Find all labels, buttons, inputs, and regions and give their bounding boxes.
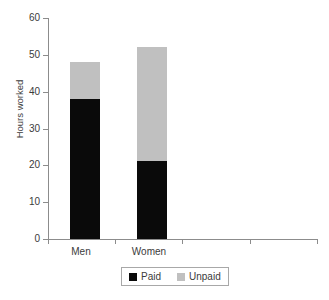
y-tick-label-0: 0 — [0, 234, 40, 244]
stacked-bar-chart: 60 50 40 30 20 10 0 Hours worked Men Wom… — [0, 0, 329, 300]
bar-men-unpaid — [70, 62, 100, 99]
bar-women-paid — [137, 161, 167, 239]
legend-item-unpaid: Unpaid — [177, 272, 221, 282]
y-tick-40 — [43, 92, 48, 93]
legend-label-unpaid: Unpaid — [189, 272, 221, 282]
legend-swatch-unpaid-icon — [177, 273, 185, 281]
y-tick-60 — [43, 18, 48, 19]
y-tick-label-60: 60 — [0, 13, 40, 23]
bar-women-unpaid — [137, 47, 167, 161]
y-tick-20 — [43, 165, 48, 166]
x-tick-2 — [182, 239, 183, 244]
x-axis-line — [48, 239, 318, 240]
x-tick-3 — [250, 239, 251, 244]
x-tick-0 — [48, 239, 49, 244]
y-tick-30 — [43, 129, 48, 130]
x-tick-4 — [317, 239, 318, 244]
y-tick-10 — [43, 202, 48, 203]
bar-men-paid — [70, 99, 100, 239]
y-tick-50 — [43, 55, 48, 56]
y-tick-label-10: 10 — [0, 197, 40, 207]
y-axis-line — [48, 18, 49, 239]
x-tick-1 — [115, 239, 116, 244]
chart-legend: Paid Unpaid — [121, 267, 229, 286]
x-tick-label-women: Women — [114, 246, 184, 258]
legend-label-paid: Paid — [141, 272, 161, 282]
legend-swatch-paid-icon — [129, 273, 137, 281]
legend-item-paid: Paid — [129, 272, 161, 282]
y-axis-title: Hours worked — [15, 44, 25, 174]
x-tick-label-men: Men — [46, 246, 116, 258]
